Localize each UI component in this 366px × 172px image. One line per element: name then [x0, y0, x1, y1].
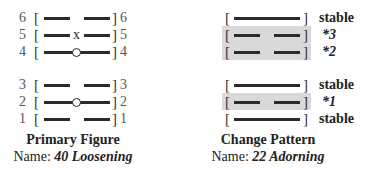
close-bracket: ] — [112, 10, 117, 26]
close-bracket: ] — [303, 10, 308, 26]
close-bracket: ] — [112, 111, 117, 127]
open-bracket: [ — [34, 10, 39, 26]
line-number: 3 — [19, 77, 26, 93]
close-bracket: ] — [303, 94, 308, 110]
open-bracket: [ — [225, 27, 230, 43]
broken-line-right — [274, 101, 300, 104]
open-bracket: [ — [225, 77, 230, 93]
primary-name-value: 40 Loosening — [54, 149, 132, 164]
line-number: 6 — [19, 10, 26, 26]
change-label: stable — [319, 10, 354, 26]
broken-line-right — [84, 17, 110, 20]
close-bracket: ] — [112, 94, 117, 110]
line-number: 1 — [120, 111, 127, 127]
line-number: 2 — [120, 94, 127, 110]
close-bracket: ] — [112, 77, 117, 93]
broken-line-right — [84, 84, 110, 87]
circle-mark-icon — [72, 48, 81, 57]
line-number: 5 — [19, 27, 26, 43]
close-bracket: ] — [112, 27, 117, 43]
change-label: stable — [319, 111, 354, 127]
close-bracket: ] — [303, 111, 308, 127]
close-bracket: ] — [303, 77, 308, 93]
broken-line-right — [274, 51, 300, 54]
close-bracket: ] — [303, 27, 308, 43]
open-bracket: [ — [225, 10, 230, 26]
line-number: 4 — [19, 44, 26, 60]
broken-line-left — [44, 34, 70, 37]
solid-line — [234, 17, 300, 20]
open-bracket: [ — [225, 111, 230, 127]
line-number: 5 — [120, 27, 127, 43]
change-name-value: 22 Adorning — [252, 149, 324, 164]
open-bracket: [ — [225, 94, 230, 110]
close-bracket: ] — [112, 44, 117, 60]
change-label: stable — [319, 77, 354, 93]
broken-line-left — [44, 17, 70, 20]
line-number: 1 — [19, 111, 26, 127]
change-label: *1 — [322, 94, 336, 110]
primary-figure-title: Primary Figure — [0, 132, 153, 148]
open-bracket: [ — [34, 94, 39, 110]
broken-line-right — [84, 118, 110, 121]
open-bracket: [ — [34, 27, 39, 43]
close-bracket: ] — [303, 44, 308, 60]
line-number: 6 — [120, 10, 127, 26]
x-mark-icon: x — [73, 28, 80, 42]
solid-line — [234, 118, 300, 121]
line-number: 3 — [120, 77, 127, 93]
change-pattern-title: Change Pattern — [188, 132, 348, 148]
open-bracket: [ — [34, 44, 39, 60]
broken-line-right — [274, 34, 300, 37]
change-label: *3 — [322, 27, 336, 43]
broken-line-left — [234, 51, 260, 54]
line-number: 2 — [19, 94, 26, 110]
circle-mark-icon — [72, 98, 81, 107]
line-number: 4 — [120, 44, 127, 60]
broken-line-right — [84, 34, 110, 37]
broken-line-left — [234, 101, 260, 104]
open-bracket: [ — [34, 77, 39, 93]
change-label: *2 — [322, 44, 336, 60]
broken-line-left — [44, 118, 70, 121]
open-bracket: [ — [34, 111, 39, 127]
broken-line-left — [234, 34, 260, 37]
change-pattern-name: Name: 22 Adorning — [188, 149, 348, 165]
primary-figure-name: Name: 40 Loosening — [0, 149, 153, 165]
broken-line-left — [44, 84, 70, 87]
open-bracket: [ — [225, 44, 230, 60]
solid-line — [234, 84, 300, 87]
